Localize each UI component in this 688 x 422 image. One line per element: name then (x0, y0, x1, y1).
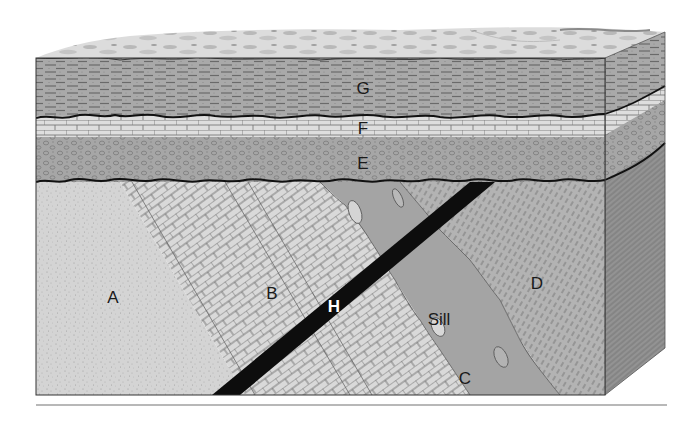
label-h: H (328, 298, 340, 315)
top-surface (36, 27, 665, 58)
geologic-block-diagram (0, 0, 688, 422)
label-b: B (266, 285, 277, 302)
layer-g (36, 58, 605, 118)
separator-line (36, 404, 667, 406)
layer-f (36, 115, 605, 137)
front-face (36, 57, 605, 395)
label-f: F (358, 120, 368, 137)
label-g: G (356, 80, 369, 97)
side-face (605, 32, 665, 395)
label-sill: Sill (428, 311, 451, 328)
label-e: E (357, 155, 368, 172)
layer-e (36, 137, 605, 182)
label-a: A (107, 289, 118, 306)
label-c: C (459, 370, 471, 387)
label-d: D (531, 275, 543, 292)
